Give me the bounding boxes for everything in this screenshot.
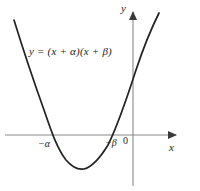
x-tick-label-minus-beta: −β: [105, 138, 117, 148]
parabola-curve: [14, 13, 159, 169]
curve-equation-label: y = (x + α)(x + β): [29, 46, 112, 57]
x-axis-label: x: [169, 142, 174, 153]
x-tick-label-minus-alpha: −α: [38, 139, 50, 149]
plot-canvas: [0, 0, 200, 191]
y-axis-label: y: [121, 3, 126, 14]
parabola-figure: y = (x + α)(x + β) −α −β 0 x y: [0, 0, 200, 191]
origin-label: 0: [123, 136, 128, 146]
